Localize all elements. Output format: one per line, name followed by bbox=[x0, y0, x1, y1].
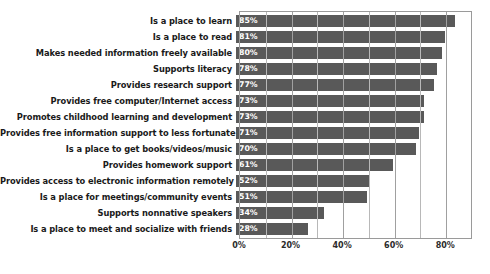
bar-row: Provides free computer/Internet access73… bbox=[0, 93, 490, 109]
x-tick-label: 20% bbox=[281, 241, 300, 250]
bar-row: Supports literacy78% bbox=[0, 61, 490, 77]
category-label: Provides free computer/Internet access bbox=[0, 93, 236, 109]
bar: 73% bbox=[236, 95, 424, 107]
bar-value-label: 28% bbox=[236, 223, 258, 235]
bar: 28% bbox=[236, 223, 308, 235]
bar-row: Supports nonnative speakers34% bbox=[0, 205, 490, 221]
x-tick-label: 40% bbox=[333, 241, 352, 250]
chart-rows-area: Is a place to learn85%Is a place to read… bbox=[0, 13, 490, 237]
bar: 85% bbox=[236, 15, 455, 27]
category-label: Provides homework support bbox=[0, 157, 236, 173]
bar: 78% bbox=[236, 63, 437, 75]
category-label: Promotes childhood learning and developm… bbox=[0, 109, 236, 125]
category-label: Is a place to get books/videos/music bbox=[0, 141, 236, 157]
bar-row: Promotes childhood learning and developm… bbox=[0, 109, 490, 125]
bar-track: 73% bbox=[236, 93, 468, 109]
bar-row: Is a place to learn85% bbox=[0, 13, 490, 29]
category-label: Is a place for meetings/community events bbox=[0, 189, 236, 205]
bar: 73% bbox=[236, 111, 424, 123]
bar: 61% bbox=[236, 159, 393, 171]
bar-track: 28% bbox=[236, 221, 468, 237]
bar: 34% bbox=[236, 207, 324, 219]
category-label: Supports literacy bbox=[0, 61, 236, 77]
bar-row: Is a place for meetings/community events… bbox=[0, 189, 490, 205]
category-label: Provides research support bbox=[0, 77, 236, 93]
bar-row: Provides homework support61% bbox=[0, 157, 490, 173]
bar: 51% bbox=[236, 191, 367, 203]
category-label: Supports nonnative speakers bbox=[0, 205, 236, 221]
bar-track: 78% bbox=[236, 61, 468, 77]
category-label: Is a place to learn bbox=[0, 13, 236, 29]
category-label: Makes needed information freely availabl… bbox=[0, 45, 236, 61]
bar-value-label: 78% bbox=[236, 63, 258, 75]
bar-row: Makes needed information freely availabl… bbox=[0, 45, 490, 61]
bar-track: 70% bbox=[236, 141, 468, 157]
bar: 80% bbox=[236, 47, 442, 59]
x-axis: 0%20%40%60%80% bbox=[239, 241, 472, 255]
bar-value-label: 77% bbox=[236, 79, 258, 91]
bar: 77% bbox=[236, 79, 434, 91]
bar-value-label: 70% bbox=[236, 143, 258, 155]
bar-track: 61% bbox=[236, 157, 468, 173]
bar-row: Provides free information support to les… bbox=[0, 125, 490, 141]
category-label: Is a place to read bbox=[0, 29, 236, 45]
bar-value-label: 51% bbox=[236, 191, 258, 203]
bar-track: 71% bbox=[236, 125, 468, 141]
bar-row: Is a place to meet and socialize with fr… bbox=[0, 221, 490, 237]
bar-track: 85% bbox=[236, 13, 468, 29]
bar-chart-figure: Is a place to learn85%Is a place to read… bbox=[0, 0, 490, 274]
bar-track: 80% bbox=[236, 45, 468, 61]
category-label: Is a place to meet and socialize with fr… bbox=[0, 221, 236, 237]
bar-value-label: 73% bbox=[236, 95, 258, 107]
category-label: Provides access to electronic informatio… bbox=[0, 173, 236, 189]
bar-row: Provides access to electronic informatio… bbox=[0, 173, 490, 189]
bar-value-label: 61% bbox=[236, 159, 258, 171]
bar-track: 77% bbox=[236, 77, 468, 93]
x-tick-label: 80% bbox=[436, 241, 455, 250]
bar-track: 52% bbox=[236, 173, 468, 189]
bar: 71% bbox=[236, 127, 419, 139]
x-tick-label: 0% bbox=[232, 241, 246, 250]
bar-value-label: 73% bbox=[236, 111, 258, 123]
bar-value-label: 85% bbox=[236, 15, 258, 27]
bar: 70% bbox=[236, 143, 416, 155]
bar-value-label: 34% bbox=[236, 207, 258, 219]
bar-row: Is a place to get books/videos/music70% bbox=[0, 141, 490, 157]
category-label: Provides free information support to les… bbox=[0, 125, 236, 141]
bar-value-label: 71% bbox=[236, 127, 258, 139]
bar-track: 81% bbox=[236, 29, 468, 45]
bar-value-label: 81% bbox=[236, 31, 258, 43]
x-tick-label: 60% bbox=[384, 241, 403, 250]
bar-track: 34% bbox=[236, 205, 468, 221]
bar-track: 73% bbox=[236, 109, 468, 125]
bar-row: Is a place to read81% bbox=[0, 29, 490, 45]
bar-track: 51% bbox=[236, 189, 468, 205]
bar-row: Provides research support77% bbox=[0, 77, 490, 93]
bar-value-label: 52% bbox=[236, 175, 258, 187]
bar: 81% bbox=[236, 31, 445, 43]
bar-value-label: 80% bbox=[236, 47, 258, 59]
bar: 52% bbox=[236, 175, 370, 187]
